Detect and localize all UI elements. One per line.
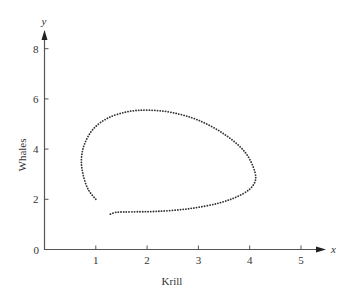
y-tick-label: 4 — [33, 143, 39, 155]
x-axis-arrow-icon — [316, 247, 326, 253]
x-axis-title: Krill — [162, 275, 183, 287]
x-tick-label: 4 — [247, 254, 253, 266]
y-tick-label: 6 — [33, 93, 39, 105]
y-axis-arrow-icon — [42, 30, 48, 40]
phase-plot: 123452468 0 x y Krill Whales — [0, 0, 350, 298]
x-axis-var: x — [330, 243, 336, 255]
x-tick-label: 3 — [196, 254, 202, 266]
y-tick-label: 2 — [33, 193, 39, 205]
trajectory-curve — [81, 110, 255, 215]
y-axis-var: y — [41, 15, 47, 27]
x-tick-label: 5 — [298, 254, 304, 266]
y-tick-label: 8 — [33, 43, 39, 55]
y-axis-title: Whales — [16, 139, 28, 172]
x-tick-label: 1 — [93, 254, 99, 266]
tick-labels: 123452468 — [33, 43, 304, 266]
origin-label: 0 — [34, 244, 40, 256]
x-tick-label: 2 — [144, 254, 150, 266]
